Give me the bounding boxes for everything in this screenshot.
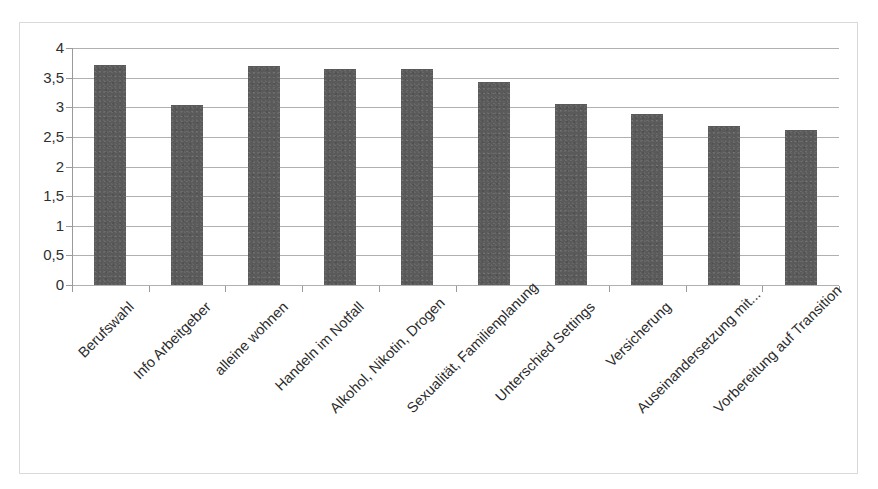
y-axis-tick-label: 0 (24, 277, 64, 292)
x-axis-category-label-text: alleine wohnen (212, 299, 292, 379)
y-axis-tick-mark (66, 107, 73, 108)
x-axis-tick-mark (456, 286, 457, 292)
y-axis-tick-mark (66, 285, 73, 286)
x-axis-tick-mark (762, 286, 763, 292)
y-axis-tick-label: 3 (24, 99, 64, 114)
x-axis-tick-mark (225, 286, 226, 292)
x-axis-category-label-text: Sexualität, Familienplanung (404, 279, 541, 416)
chart-figure: 43,532,521,510,50 BerufswahlInfo Arbeitg… (19, 22, 858, 474)
x-axis-category-label-text: Versicherung (604, 299, 675, 370)
y-axis-tick-label: 1,5 (24, 188, 64, 203)
x-axis-tick-mark (302, 286, 303, 292)
gridline (72, 48, 839, 49)
y-axis-tick-mark (66, 226, 73, 227)
bar (555, 104, 587, 285)
y-axis-tick-label: 2 (24, 159, 64, 174)
bar (401, 69, 433, 285)
x-axis-tick-mark (609, 286, 610, 292)
y-axis-tick-mark (66, 196, 73, 197)
x-axis-tick-mark (379, 286, 380, 292)
bar (94, 65, 126, 285)
x-axis-category-label-text: Info Arbeitgeber (131, 299, 215, 383)
gridline (72, 78, 839, 79)
y-axis-tick-mark (66, 255, 73, 256)
y-axis-tick-label: 3,5 (24, 70, 64, 85)
x-axis-category-label-text: Berufswahl (76, 299, 138, 361)
y-axis-tick-mark (66, 137, 73, 138)
bar (785, 130, 817, 285)
bar (708, 126, 740, 285)
x-axis-tick-mark (149, 286, 150, 292)
y-axis-tick-mark (66, 48, 73, 49)
y-axis-tick-mark (66, 167, 73, 168)
plot-area (72, 48, 839, 285)
bar (324, 69, 356, 285)
x-axis-tick-mark (686, 286, 687, 292)
x-axis-tick-mark (72, 286, 73, 292)
y-axis-tick-label: 1 (24, 218, 64, 233)
y-axis-tick-mark (66, 78, 73, 79)
bar (248, 66, 280, 285)
bar (631, 114, 663, 285)
y-axis-tick-label: 0,5 (24, 247, 64, 262)
bar (171, 105, 203, 285)
x-axis-category-label-text: Vorbereitung auf Transition (711, 283, 845, 417)
y-axis-tick-label: 2,5 (24, 129, 64, 144)
y-axis-tick-label: 4 (24, 40, 64, 55)
bar (478, 82, 510, 285)
